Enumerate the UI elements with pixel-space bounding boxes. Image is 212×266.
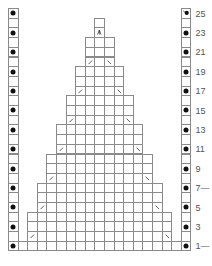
right-edge-cell: [181, 115, 192, 126]
right-edge-cell: [181, 183, 192, 194]
left-decrease-icon: [47, 174, 56, 183]
left-edge-cell: [8, 144, 19, 155]
row-label: 19: [195, 67, 205, 77]
purl-dot-icon: [11, 244, 16, 249]
row-label: 3: [195, 222, 200, 232]
purl-dot-icon: [184, 244, 189, 249]
right-edge-cell: [181, 66, 192, 77]
left-edge-cell: [8, 115, 19, 126]
chart-cell: [94, 27, 105, 38]
right-edge-cell: [181, 47, 192, 58]
chart-cell: [114, 86, 125, 97]
left-decrease-icon: [86, 58, 95, 67]
chart-cell: [123, 95, 134, 106]
left-edge-cell: [8, 202, 19, 213]
left-edge-cell: [8, 105, 19, 116]
left-edge-cell: [8, 192, 19, 203]
row-label: 21: [195, 47, 205, 57]
purl-dot-icon: [184, 88, 189, 93]
purl-dot-icon: [11, 11, 16, 16]
right-edge-cell: [181, 8, 192, 19]
purl-dot-icon: [184, 185, 189, 190]
purl-dot-icon: [184, 224, 189, 229]
left-decrease-icon: [57, 145, 66, 154]
purl-dot-icon: [11, 166, 16, 171]
left-decrease-icon: [28, 232, 37, 241]
right-edge-cell: [181, 105, 192, 116]
right-edge-cell: [181, 154, 192, 165]
row-label: 17: [195, 86, 205, 96]
right-edge-cell: [181, 27, 192, 38]
left-edge-cell: [8, 27, 19, 38]
left-edge-cell: [8, 47, 19, 58]
right-edge-cell: [181, 95, 192, 106]
chart-cell: [133, 134, 144, 145]
chart-cell: [142, 173, 153, 184]
purl-dot-icon: [184, 166, 189, 171]
left-edge-cell: [8, 86, 19, 97]
row-label: 23: [195, 28, 205, 38]
purl-dot-icon: [184, 147, 189, 152]
chart-cell: [123, 105, 134, 116]
chart-cell: [133, 124, 144, 135]
left-edge-cell: [8, 95, 19, 106]
chart-cell: [162, 221, 173, 232]
purl-dot-icon: [11, 50, 16, 55]
purl-dot-icon: [184, 30, 189, 35]
right-edge-cell: [181, 192, 192, 203]
right-edge-cell: [181, 241, 192, 252]
right-decrease-icon: [124, 116, 133, 125]
left-edge-cell: [8, 37, 19, 48]
chart-cell: [162, 231, 173, 242]
chart-cell: [133, 144, 144, 155]
right-edge-cell: [181, 173, 192, 184]
left-edge-cell: [8, 163, 19, 174]
right-edge-cell: [181, 86, 192, 97]
right-edge-cell: [181, 202, 192, 213]
right-decrease-icon: [115, 87, 124, 96]
left-edge-cell: [8, 124, 19, 135]
row-label: 13: [195, 125, 205, 135]
chart-cell: [114, 76, 125, 87]
purl-dot-icon: [184, 205, 189, 210]
right-decrease-icon: [143, 174, 152, 183]
left-edge-cell: [8, 154, 19, 165]
left-decrease-icon: [76, 87, 85, 96]
right-decrease-icon: [105, 58, 114, 67]
purl-dot-icon: [11, 69, 16, 74]
right-edge-cell: [181, 163, 192, 174]
chart-cell: [104, 57, 115, 68]
left-edge-cell: [8, 66, 19, 77]
right-decrease-icon: [163, 232, 172, 241]
chart-cell: [152, 202, 163, 213]
chart-cell: [162, 212, 173, 223]
chart-cell: [114, 66, 125, 77]
right-edge-cell: [181, 76, 192, 87]
purl-dot-icon: [184, 50, 189, 55]
left-decrease-icon: [67, 116, 76, 125]
right-edge-cell: [181, 18, 192, 29]
purl-dot-icon: [11, 108, 16, 113]
purl-dot-icon: [11, 205, 16, 210]
right-edge-cell: [181, 144, 192, 155]
center-double-decrease-icon: [95, 28, 104, 37]
purl-dot-icon: [184, 69, 189, 74]
purl-dot-icon: [11, 147, 16, 152]
row-label: 7—: [195, 183, 209, 193]
left-edge-cell: [8, 18, 19, 29]
row-label: 25: [195, 9, 205, 19]
left-edge-cell: [8, 76, 19, 87]
purl-dot-icon: [11, 185, 16, 190]
left-edge-cell: [8, 221, 19, 232]
right-decrease-icon: [134, 145, 143, 154]
left-edge-cell: [8, 183, 19, 194]
purl-dot-icon: [11, 88, 16, 93]
left-edge-cell: [8, 212, 19, 223]
purl-dot-icon: [184, 127, 189, 132]
row-label: 1—: [195, 241, 209, 251]
chart-cell: [94, 18, 105, 29]
left-edge-cell: [8, 173, 19, 184]
chart-cell: [104, 37, 115, 48]
row-label: 9: [195, 164, 200, 174]
left-edge-cell: [8, 134, 19, 145]
